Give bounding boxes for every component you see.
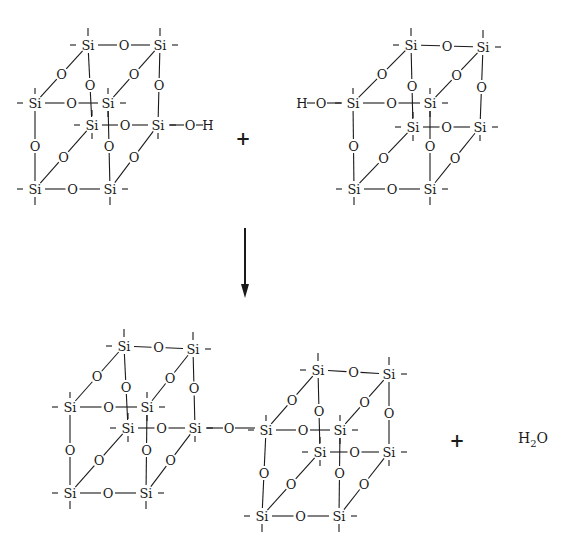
oxygen-atom: O (30, 139, 41, 154)
oxygen-atom: O (189, 381, 200, 396)
silicon-atom-tfl: Si (63, 400, 76, 415)
bond-line (158, 92, 159, 117)
product-plus-sign: + (449, 430, 464, 451)
oxygen-atom: O (85, 78, 96, 93)
oxygen-atom: O (92, 369, 103, 384)
oxygen-atom: O (141, 443, 152, 458)
oxygen-atom: O (121, 380, 132, 395)
hydroxyl-hydrogen: H (202, 118, 213, 133)
symbols-layer: + + H2O (235, 128, 548, 451)
oxygen-atom: O (156, 421, 167, 436)
hydroxyl-oxygen: O (185, 118, 196, 133)
silicon-atom-tbl: Si (311, 363, 324, 378)
bond-line (359, 79, 377, 97)
bond-line (102, 352, 119, 371)
silicon-atom-bbr: Si (188, 421, 201, 436)
bond-line (262, 480, 263, 508)
oxygen-atom: O (359, 477, 370, 492)
bond-line (113, 79, 129, 97)
bond-line (104, 434, 123, 455)
oxygen-atom: O (387, 182, 398, 197)
oxygen-atom: O (451, 68, 462, 83)
silicon-atom-tbl: Si (404, 38, 417, 53)
bond-line (296, 458, 315, 479)
silicon-atom-tfr: Si (423, 96, 436, 111)
silicon-atom-bfl: Si (347, 182, 360, 197)
bond-line (66, 51, 82, 69)
oxygen-atom: O (295, 509, 306, 524)
oxygen-atom: O (129, 67, 140, 82)
oxygen-atom: O (120, 118, 131, 133)
silicon-atom-tfl: Si (346, 96, 359, 111)
bond-line (297, 376, 313, 395)
oxygen-atom: O (407, 79, 418, 94)
bond-line (318, 378, 319, 404)
oxygen-atom: O (129, 150, 140, 165)
bond-line (75, 382, 92, 401)
reaction-arrow-icon (241, 228, 249, 298)
arrow-head-icon (241, 284, 249, 298)
oxygen-atom: O (348, 139, 359, 154)
silicon-atom-bbl: Si (313, 445, 326, 460)
oxygen-atom: O (56, 67, 67, 82)
silicon-atom-tfr: Si (333, 423, 346, 438)
bond-line (68, 131, 87, 152)
silicon-atom-tbr: Si (476, 40, 489, 55)
silicon-atom-tbr: Si (382, 367, 395, 382)
bond-line (174, 355, 188, 372)
bond-line (194, 395, 195, 420)
oxygen-atom: O (165, 453, 176, 468)
silicon-atom-bbr: Si (382, 445, 395, 460)
silicon-atom-tfl: Si (259, 423, 272, 438)
bond-line (328, 371, 347, 372)
bond-line (40, 162, 59, 183)
silicon-atom-bbl: Si (406, 120, 419, 135)
silicon-atom-bfr: Si (103, 182, 116, 197)
bond-line (90, 92, 91, 117)
reactant-plus-sign: + (235, 128, 250, 149)
bond-line (369, 380, 384, 397)
silicon-atom-bbl: Si (121, 421, 134, 436)
silicon-atom-bfr: Si (139, 486, 152, 501)
bond-line (411, 53, 412, 79)
oxygen-atom: O (298, 423, 309, 438)
reaction-diagram: OOOOOOOOOOOOSiSiSiSiSiSiSiSiOHOOOOOOOOOO… (0, 0, 580, 549)
oxygen-atom: O (66, 96, 77, 111)
oxygen-atom: O (348, 365, 359, 380)
bond-line (152, 383, 166, 400)
bond-line (159, 53, 160, 78)
oxygen-atom: O (377, 67, 388, 82)
silicon-atom-bfl: Si (63, 486, 76, 501)
water-h: H (518, 430, 530, 446)
bond-line (482, 55, 483, 80)
oxygen-atom: O (425, 139, 436, 154)
bond-line (421, 45, 440, 46)
bond-line (88, 53, 89, 78)
bond-line (134, 346, 152, 347)
bond-line (388, 133, 407, 153)
bond-line (126, 394, 127, 420)
bond-line (267, 489, 286, 510)
bond-line (271, 405, 287, 424)
oxygen-atom: O (104, 139, 115, 154)
oxygen-atom: O (384, 406, 395, 421)
silicon-atom-bbr: Si (151, 118, 164, 133)
bond-line (151, 466, 166, 487)
atoms-layer: OOOOOOOOOOOOSiSiSiSiSiSiSiSiOHOOOOOOOOOO… (28, 38, 489, 524)
bond-line (461, 53, 477, 70)
bond-line (344, 490, 360, 510)
bond-line (360, 163, 379, 183)
silicon-atom-tbr: Si (186, 342, 199, 357)
bond-line (175, 434, 190, 455)
oxygen-atom: O (119, 38, 130, 53)
bond-line (435, 80, 451, 97)
oxygen-atom: O (286, 477, 297, 492)
oxygen-atom: O (349, 445, 360, 460)
bond-line (109, 153, 110, 181)
silicon-atom-bfr: Si (332, 509, 345, 524)
silicon-atom-tfr: Si (140, 400, 153, 415)
oxygen-atom: O (103, 486, 114, 501)
silicon-atom-bfl: Si (255, 509, 268, 524)
water-o: O (537, 430, 548, 446)
silicon-atom-tbr: Si (153, 38, 166, 53)
